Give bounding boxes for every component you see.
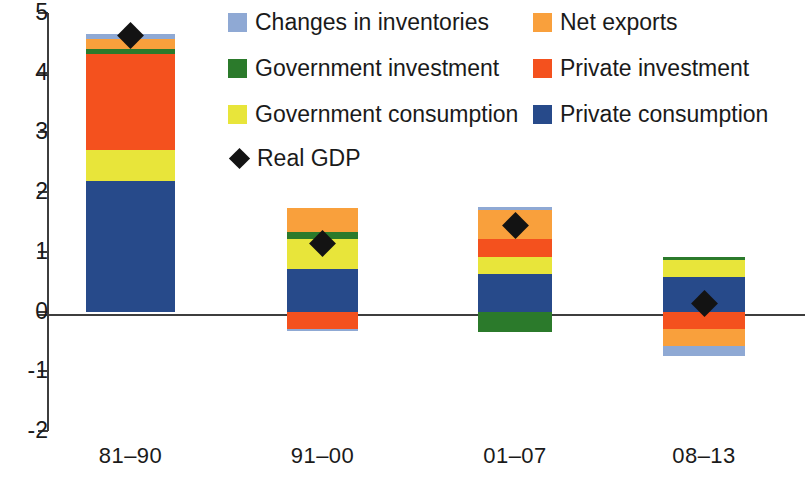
x-axis-label: 81–90	[61, 444, 201, 468]
legend-item[interactable]: Government consumption	[228, 102, 518, 127]
legend-swatch-icon	[228, 13, 247, 32]
y-tick-label: 2	[14, 180, 48, 203]
y-tick-label: 0	[14, 300, 48, 323]
legend-label: Private investment	[560, 56, 749, 81]
legend-item[interactable]: Government investment	[228, 56, 499, 81]
bar-segment	[287, 312, 358, 330]
legend-item[interactable]: Private consumption	[533, 102, 768, 127]
legend-label: Government investment	[255, 56, 499, 81]
y-tick-label: 1	[14, 240, 48, 263]
stacked-bar	[86, 13, 175, 431]
bar-segment	[663, 329, 745, 345]
bar-segment	[478, 239, 552, 256]
bar-segment	[287, 329, 358, 330]
legend-swatch-icon	[533, 105, 552, 124]
bar-segment	[663, 260, 745, 277]
legend-item[interactable]: Real GDP	[230, 146, 361, 171]
bar-segment	[663, 257, 745, 260]
bar-segment	[86, 54, 175, 150]
legend: Changes in inventoriesNet exportsGovernm…	[228, 6, 788, 171]
bar-segment	[478, 207, 552, 210]
y-tick-label: 4	[14, 61, 48, 84]
legend-diamond-icon	[229, 148, 250, 169]
legend-label: Changes in inventories	[255, 10, 489, 35]
bar-segment	[478, 312, 552, 333]
legend-label: Government consumption	[255, 102, 518, 127]
legend-label: Private consumption	[560, 102, 768, 127]
bar-segment	[478, 257, 552, 274]
y-tick-label: -2	[14, 419, 48, 442]
legend-item[interactable]: Changes in inventories	[228, 10, 489, 35]
y-tick-label: 5	[14, 1, 48, 24]
bar-segment	[86, 181, 175, 312]
bar-segment	[287, 269, 358, 311]
bar-segment	[287, 208, 358, 231]
legend-label: Real GDP	[257, 146, 361, 171]
legend-swatch-icon	[228, 59, 247, 78]
bar-segment	[86, 150, 175, 181]
legend-label: Net exports	[560, 10, 678, 35]
y-tick-label: -1	[14, 359, 48, 382]
legend-swatch-icon	[228, 105, 247, 124]
bar-segment	[478, 274, 552, 312]
x-axis-label: 01–07	[445, 444, 585, 468]
legend-item[interactable]: Private investment	[533, 56, 749, 81]
bar-segment	[86, 49, 175, 54]
legend-swatch-icon	[533, 13, 552, 32]
x-axis-label: 08–13	[634, 444, 774, 468]
legend-swatch-icon	[533, 59, 552, 78]
bar-segment	[663, 346, 745, 356]
x-axis-label: 91–00	[253, 444, 393, 468]
y-tick-label: 3	[14, 120, 48, 143]
legend-item[interactable]: Net exports	[533, 10, 678, 35]
chart-root: 543210-1-2 81–9091–0001–0708–13 Changes …	[0, 0, 807, 486]
